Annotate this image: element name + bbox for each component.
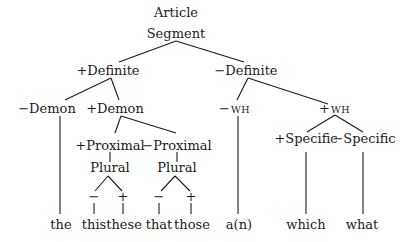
edge-plus-definite-plus-demon: [111, 78, 119, 100]
plus-wh-sign: +: [319, 101, 330, 116]
node-minus-demon: −Demon: [18, 101, 76, 116]
root-label-line1: Article: [153, 5, 198, 20]
node-plural2-plus: +: [186, 189, 197, 204]
edge-plus-wh-minus-specific: [335, 115, 363, 132]
article-segment-tree: Article Segment +Definite −Definite −Dem…: [0, 0, 403, 242]
leaf-a-n: a(n): [226, 217, 252, 232]
edge-root-plus-definite: [119, 41, 176, 62]
node-plural1-plus: +: [118, 189, 129, 204]
node-plus-proximal: +Proximal: [75, 138, 144, 153]
node-minus-wh: − WH: [219, 101, 250, 116]
node-plural2-minus: −: [154, 189, 165, 204]
node-minus-specific: −Specific: [332, 131, 395, 146]
plus-wh-label: WH: [331, 104, 350, 115]
leaf-those: those: [174, 217, 210, 232]
root-label-line2: Segment: [147, 26, 206, 41]
node-plus-definite: +Definite: [76, 63, 139, 78]
edge-plus-demon-minus-proximal: [121, 116, 176, 133]
minus-wh-label: WH: [231, 104, 250, 115]
node-minus-proximal: −Proximal: [142, 138, 211, 153]
tree-nodes: Article Segment +Definite −Definite −Dem…: [18, 5, 395, 204]
edge-root-minus-definite: [176, 41, 244, 62]
leaf-this: this: [82, 217, 106, 232]
leaf-the: the: [50, 217, 72, 232]
leaf-that: that: [146, 217, 173, 232]
node-minus-definite: −Definite: [214, 63, 277, 78]
node-plus-wh: + WH: [319, 101, 350, 116]
node-plus-demon: +Demon: [86, 101, 144, 116]
leaf-these: these: [106, 217, 142, 232]
edge-plus-demon-plus-proximal: [115, 116, 121, 133]
tree-leaves: the this these that those a(n) which wha…: [50, 217, 379, 232]
node-plural-proximal: Plural: [90, 160, 129, 175]
edge-plus-definite-minus-demon: [65, 78, 111, 100]
node-plural1-minus: −: [89, 189, 100, 204]
minus-wh-sign: −: [219, 101, 230, 116]
edge-minus-definite-plus-wh: [248, 78, 328, 104]
edge-plus-wh-plus-specific: [307, 115, 335, 132]
leaf-which: which: [286, 217, 326, 232]
edge-minus-definite-minus-wh: [237, 78, 248, 100]
node-plus-specific: +Specific: [274, 131, 337, 146]
leaf-what: what: [346, 217, 379, 232]
node-plural-distal: Plural: [157, 160, 196, 175]
